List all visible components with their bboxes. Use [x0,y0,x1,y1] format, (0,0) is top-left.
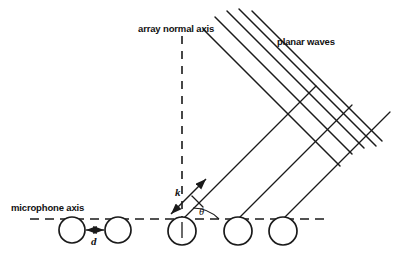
microphone-axis-label: microphone axis [11,203,84,213]
microphone-2[interactable] [105,217,131,243]
propagation-ray-3 [283,112,390,219]
spacing-d-label: d [91,236,97,247]
propagation-ray-2 [238,105,352,219]
microphone-4[interactable] [224,217,252,245]
theta-angle-label: θ [199,207,204,218]
propagation-ray-group [183,86,390,219]
wavefront-line-1 [203,29,340,166]
diagram-canvas: microphone axis array normal axis planar… [0,0,393,257]
planar-waves-label: planar waves [277,37,335,47]
array-normal-axis-label: array normal axis [138,24,214,34]
microphone-5[interactable] [269,217,297,245]
wavefront-line-5 [252,11,382,141]
theta-angle-arc [193,208,219,219]
microphone-1[interactable] [59,217,85,243]
wavefront-line-3 [227,11,364,148]
wavefront-line-4 [239,9,376,146]
propagation-ray-1 [183,86,316,219]
wavevector-k-label: k [175,187,181,198]
planar-wavefront-group [203,9,382,166]
